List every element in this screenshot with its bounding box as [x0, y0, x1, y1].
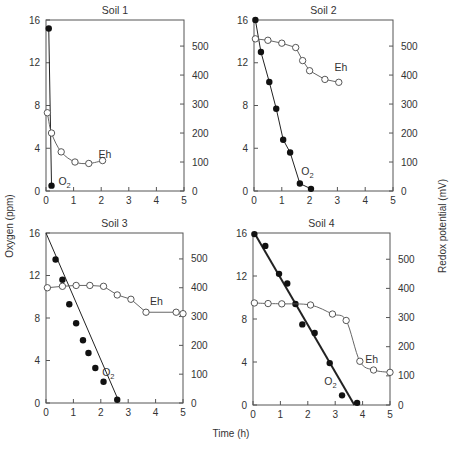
- y-tick-label-left: 8: [34, 100, 40, 111]
- x-tick-label: 3: [335, 195, 341, 206]
- curve: [49, 29, 52, 186]
- eh-data-point: [48, 130, 54, 136]
- eh-data-point: [173, 309, 179, 315]
- o2-data-point: [251, 231, 257, 237]
- o2-data-point: [252, 17, 258, 23]
- eh-data-point: [72, 159, 78, 165]
- o2-data-point: [284, 280, 290, 286]
- y-tick-label-right: 400: [401, 70, 418, 81]
- y-tick-label-left: 0: [34, 186, 40, 197]
- y-tick-label-right: 200: [191, 340, 208, 351]
- y-tick-label-right: 200: [401, 128, 418, 139]
- eh-series-label: Eh: [335, 61, 348, 73]
- y-tick-label-left: 8: [34, 313, 40, 324]
- plot-frame: [46, 20, 184, 191]
- series-eh: [44, 282, 186, 317]
- y-tick-label-right: 0: [398, 400, 404, 411]
- x-tick-label: 2: [98, 407, 104, 418]
- y-tick-label-left: 0: [34, 398, 40, 409]
- eh-data-point: [58, 149, 64, 155]
- x-tick-label: 5: [390, 195, 396, 206]
- x-tick-label: 0: [43, 407, 49, 418]
- x-tick-label: 3: [125, 407, 131, 418]
- x-tick-label: 2: [305, 409, 311, 420]
- y-tick-label-right: 500: [191, 253, 208, 264]
- eh-data-point: [387, 369, 393, 375]
- o2-data-point: [73, 320, 79, 326]
- y-axis-label-right: Redox potential (mV): [437, 179, 448, 273]
- panel-title: Soil 2: [310, 4, 336, 16]
- x-tick-label: 2: [307, 195, 313, 206]
- series-eh: [44, 110, 106, 167]
- eh-data-point: [370, 367, 376, 373]
- o2-data-point: [354, 400, 360, 406]
- eh-series-label: Eh: [98, 148, 111, 160]
- y-tick-label-left: 12: [236, 271, 248, 282]
- o2-data-point: [262, 243, 268, 249]
- y-tick-label-right: 300: [401, 99, 418, 110]
- x-tick-label: 0: [250, 409, 256, 420]
- o2-data-point: [297, 180, 303, 186]
- eh-series-label: Eh: [150, 295, 163, 307]
- o2-series-label: O2: [58, 175, 70, 190]
- x-tick-label: 1: [71, 407, 77, 418]
- soil-panel-1: Soil 104812160100200300400500012345O2Eh: [29, 4, 209, 206]
- x-tick-label: 4: [153, 407, 159, 418]
- soil-panel-3: Soil 304812160100200300400500012345O2Eh: [29, 217, 208, 418]
- y-tick-label-right: 200: [192, 128, 209, 139]
- o2-data-point: [46, 25, 52, 31]
- eh-data-point: [329, 311, 335, 317]
- y-tick-label-left: 4: [241, 357, 247, 368]
- eh-data-point: [59, 283, 65, 289]
- eh-data-point: [252, 36, 258, 42]
- y-tick-label-right: 100: [398, 370, 415, 381]
- y-tick-label-right: 500: [192, 41, 209, 52]
- o2-data-point: [311, 330, 317, 336]
- eh-data-point: [100, 283, 106, 289]
- eh-data-point: [279, 301, 285, 307]
- y-tick-label-left: 4: [34, 355, 40, 366]
- soil-panel-4: Soil 404812160100200300400500012345O2Eh: [236, 217, 415, 420]
- o2-data-point: [85, 350, 91, 356]
- o2-data-point: [48, 182, 54, 188]
- eh-data-point: [86, 160, 92, 166]
- y-tick-label-left: 12: [237, 57, 249, 68]
- y-tick-label-right: 400: [192, 70, 209, 81]
- eh-data-point: [143, 309, 149, 315]
- o2-data-point: [59, 277, 65, 283]
- o2-data-point: [273, 106, 279, 112]
- o2-data-point: [258, 49, 264, 55]
- o2-data-point: [308, 186, 314, 192]
- plot-frame: [253, 233, 390, 405]
- y-tick-label-right: 300: [398, 312, 415, 323]
- eh-data-point: [44, 285, 50, 291]
- y-tick-label-right: 300: [192, 99, 209, 110]
- eh-data-point: [343, 317, 349, 323]
- plot-frame: [254, 20, 393, 191]
- o2-data-point: [280, 137, 286, 143]
- x-tick-label: 0: [251, 195, 257, 206]
- o2-data-point: [339, 392, 345, 398]
- x-tick-label: 4: [360, 409, 366, 420]
- eh-data-point: [265, 37, 271, 43]
- y-tick-label-right: 200: [398, 341, 415, 352]
- y-tick-label-right: 0: [192, 186, 198, 197]
- eh-data-point: [279, 40, 285, 46]
- y-tick-label-left: 16: [29, 15, 41, 26]
- y-tick-label-right: 500: [398, 254, 415, 265]
- eh-data-point: [44, 110, 50, 116]
- eh-data-point: [336, 79, 342, 85]
- eh-data-point: [114, 292, 120, 298]
- y-tick-label-left: 16: [236, 228, 248, 239]
- y-tick-label-left: 0: [241, 400, 247, 411]
- y-tick-label-right: 100: [401, 157, 418, 168]
- series-eh: [252, 36, 342, 86]
- x-tick-label: 4: [362, 195, 368, 206]
- o2-data-point: [287, 149, 293, 155]
- y-tick-label-right: 0: [401, 186, 407, 197]
- y-axis-label-left: Oxygen (ppm): [4, 194, 15, 257]
- panel-title: Soil 4: [308, 217, 334, 229]
- o2-data-point: [266, 79, 272, 85]
- panel-title: Soil 3: [101, 217, 127, 229]
- o2-data-point: [327, 360, 333, 366]
